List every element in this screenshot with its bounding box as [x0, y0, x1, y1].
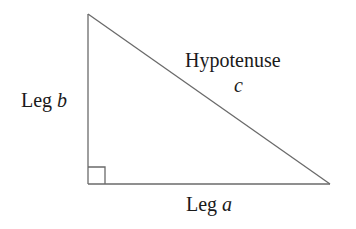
leg-a-variable: a [222, 193, 232, 215]
hypotenuse-line [88, 14, 330, 184]
right-triangle-figure: Leg b Hypotenuse c Leg a [0, 0, 356, 229]
leg-b-label: Leg b [21, 90, 67, 110]
leg-a-label-text: Leg [186, 193, 222, 215]
hypotenuse-label: Hypotenuse [185, 50, 281, 70]
leg-b-variable: b [57, 89, 67, 111]
triangle-diagram [0, 0, 356, 229]
leg-b-label-text: Leg [21, 89, 57, 111]
right-angle-marker-icon [88, 167, 105, 184]
leg-a-label: Leg a [186, 194, 232, 214]
hypotenuse-variable: c [234, 75, 243, 95]
